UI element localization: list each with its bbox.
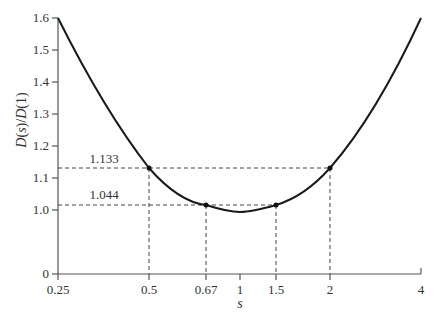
y-tick-label: 1.2 <box>33 138 49 153</box>
annotation-1133: 1.133 <box>89 151 118 166</box>
y-tick-label: 1.1 <box>33 170 49 185</box>
y-tick-label: 1.6 <box>33 10 50 25</box>
guide-lines <box>58 168 330 274</box>
x-tick-label: 4 <box>418 282 425 297</box>
y-tick-label: 0 <box>43 266 50 281</box>
y-ticks <box>52 18 58 274</box>
y-tick-label: 1.3 <box>33 106 49 121</box>
y-tick-label: 1.5 <box>33 42 49 57</box>
x-tick-label: 1 <box>237 282 244 297</box>
y-tick-label: 1.4 <box>33 74 50 89</box>
x-tick-label: 2 <box>327 282 334 297</box>
data-curve <box>58 18 421 212</box>
annotation-1044: 1.044 <box>89 187 119 202</box>
point-s-2 <box>328 166 333 171</box>
point-s-0.5 <box>147 166 152 171</box>
chart: 1.6 1.5 1.4 1.3 1.2 1.1 1.0 0 0.25 0.5 0… <box>0 0 439 319</box>
x-axis-title: s <box>237 296 243 311</box>
point-s-0.67 <box>204 203 209 208</box>
x-tick-labels: 0.25 0.5 0.67 1 1.5 2 4 <box>47 282 425 297</box>
y-tick-labels: 1.6 1.5 1.4 1.3 1.2 1.1 1.0 0 <box>33 10 50 281</box>
x-tick-label: 0.5 <box>141 282 157 297</box>
x-tick-label: 0.67 <box>195 282 218 297</box>
y-axis-title: D(s)/D(1) <box>14 92 30 149</box>
y-tick-label: 1.0 <box>33 202 49 217</box>
x-tick-label: 0.25 <box>47 282 70 297</box>
x-tick-label: 1.5 <box>268 282 284 297</box>
marked-points <box>147 166 333 208</box>
point-s-1.5 <box>274 203 279 208</box>
